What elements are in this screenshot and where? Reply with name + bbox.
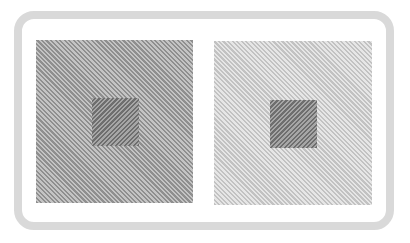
right-outer-striped-square: [214, 41, 372, 205]
right-inner-striped-square: [270, 100, 317, 148]
left-inner-striped-square: [92, 98, 139, 146]
left-outer-striped-square: [36, 40, 193, 203]
